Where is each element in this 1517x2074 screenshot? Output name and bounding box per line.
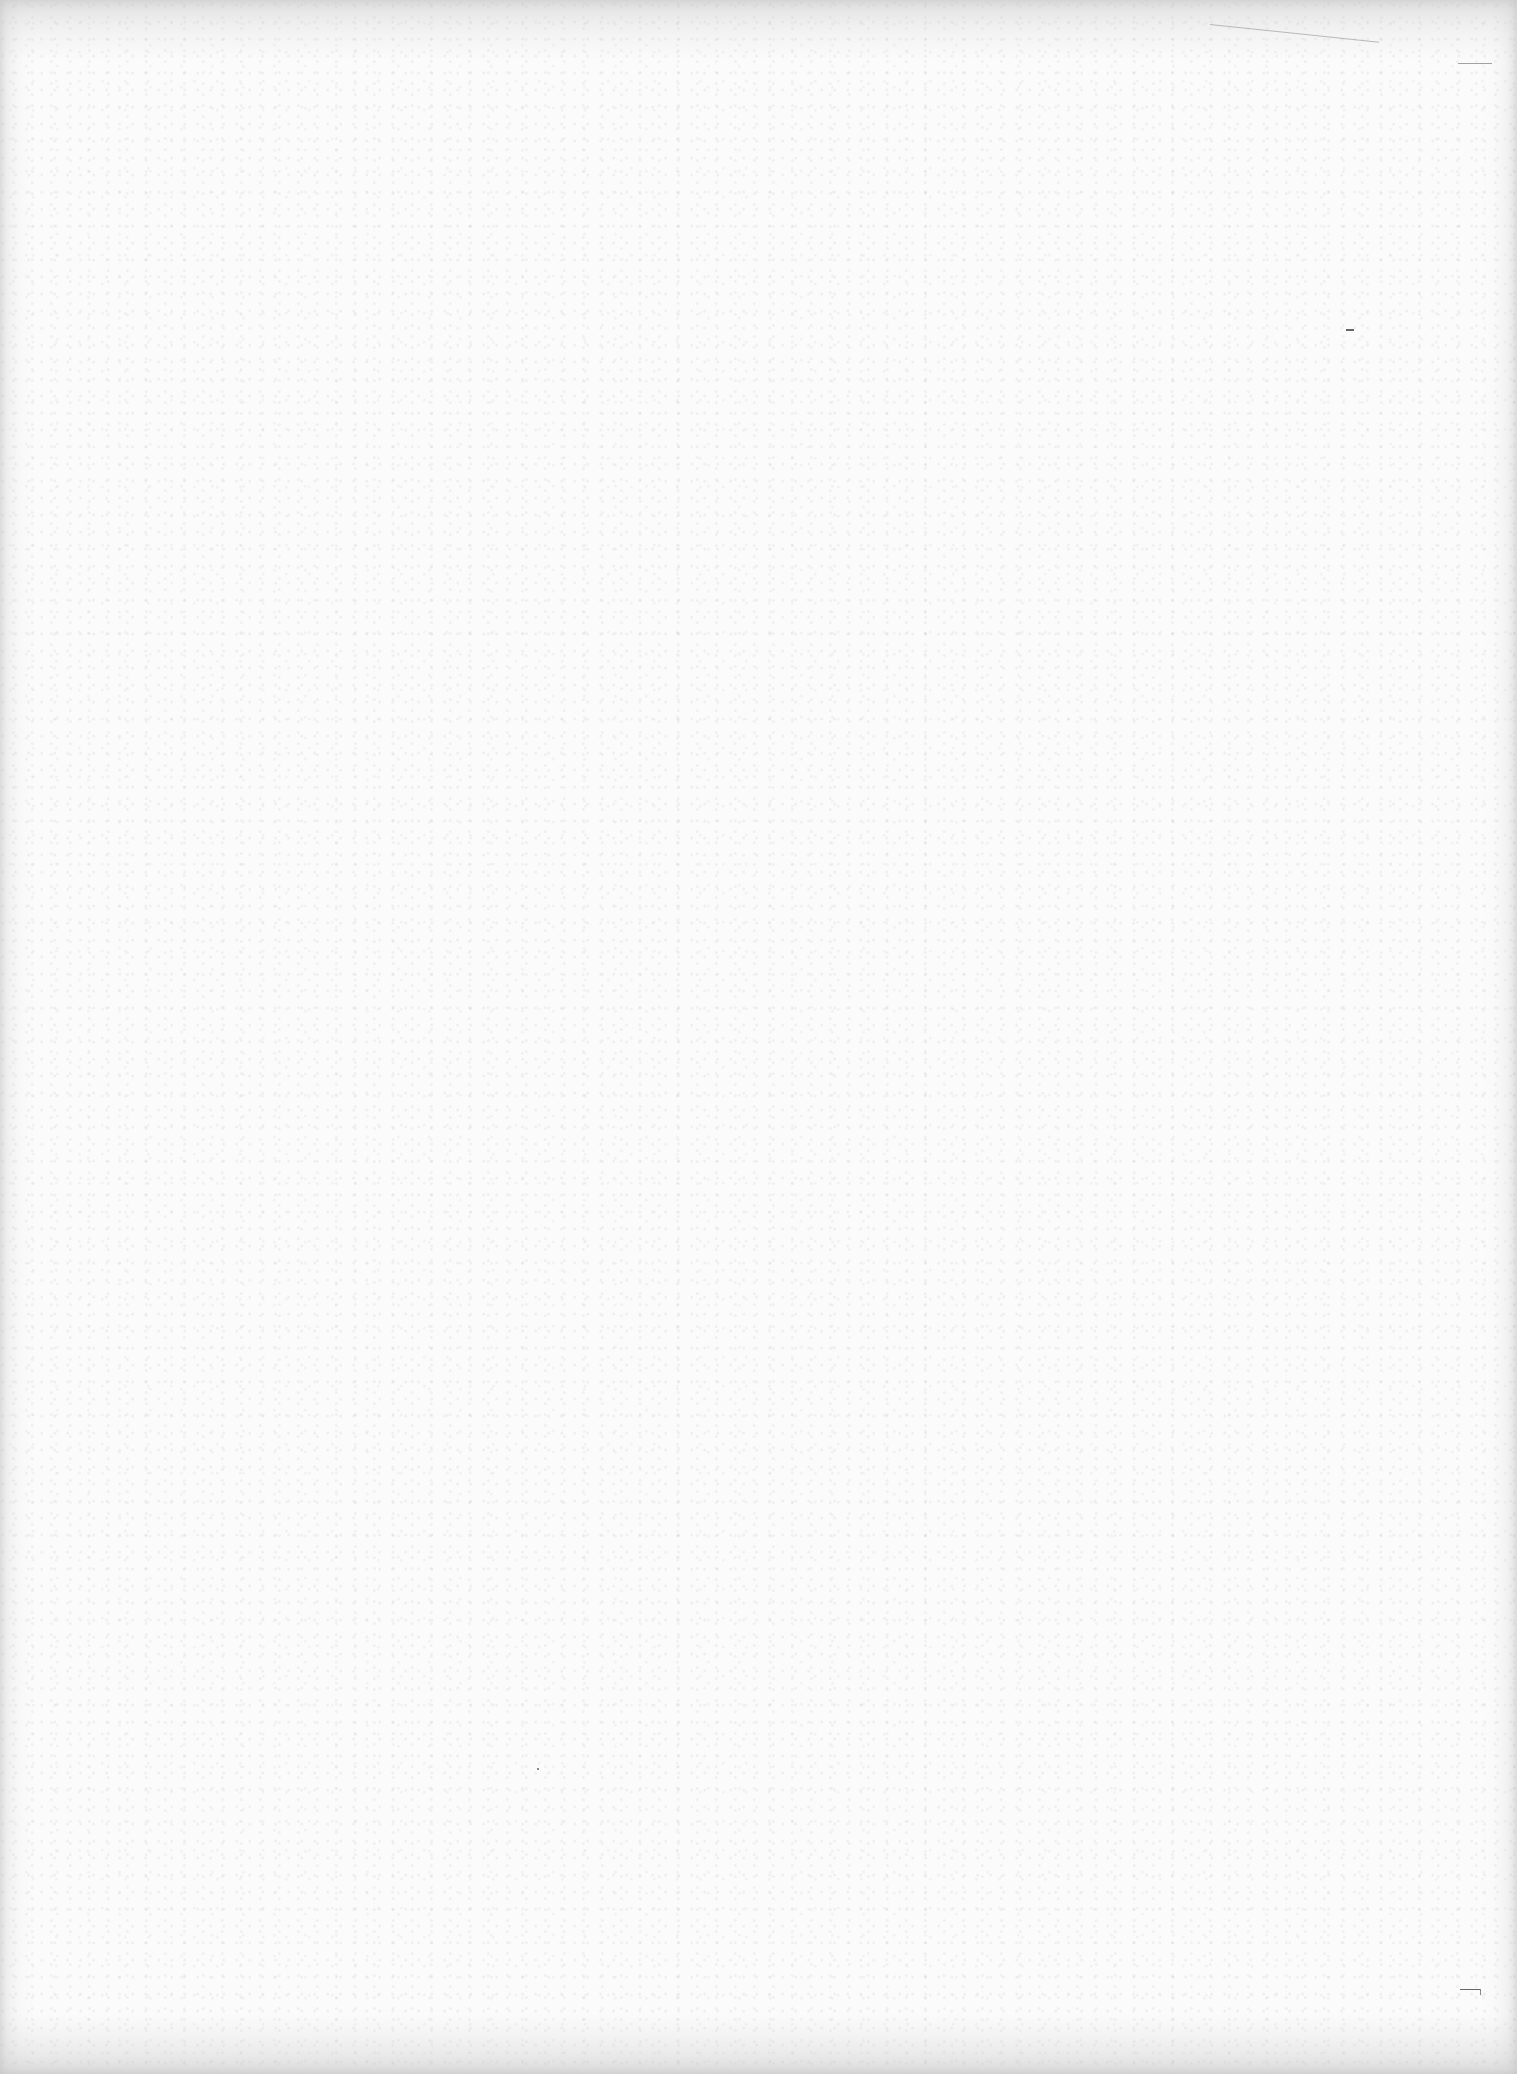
blank-page: [0, 0, 1517, 2074]
stray-ink-dot: [537, 1768, 539, 1770]
paper-texture: [0, 0, 1517, 2074]
stray-corner-mark: [1460, 1989, 1480, 1990]
stray-dash-mark: [1458, 63, 1492, 64]
scan-edge-shadow-bottom: [0, 2014, 1517, 2074]
stray-ink-speck: [1346, 329, 1354, 331]
scan-edge-shadow-top: [0, 0, 1517, 60]
